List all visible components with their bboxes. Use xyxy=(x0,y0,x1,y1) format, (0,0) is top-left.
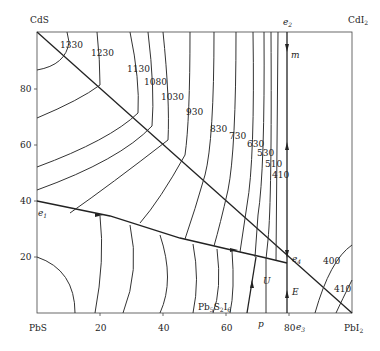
point-e4: e4 xyxy=(292,254,301,265)
y-tick-60: 60 xyxy=(20,140,32,150)
stable-diagonal xyxy=(37,32,352,313)
svg-text:1030: 1030 xyxy=(161,92,184,102)
svg-text:1230: 1230 xyxy=(91,48,114,58)
svg-text:530: 530 xyxy=(257,148,274,158)
y-tick-40: 40 xyxy=(20,196,32,206)
svg-text:930: 930 xyxy=(186,107,203,117)
y-tick-20: 20 xyxy=(20,252,32,262)
svg-text:830: 830 xyxy=(210,124,227,134)
isotherm-labels: 1330 1230 1130 1080 1030 930 830 730 630… xyxy=(60,40,351,294)
x-tick-60: 60 xyxy=(221,323,233,333)
corner-pbi2: PbI2 xyxy=(344,323,363,334)
svg-text:1330: 1330 xyxy=(60,40,83,50)
point-m: m xyxy=(291,50,300,60)
phase-diagram: CdS CdI2 PbS PbI2 20 40 60 80 20 40 60 8… xyxy=(0,0,380,351)
svg-text:400: 400 xyxy=(323,256,340,266)
point-e1: e1 xyxy=(38,208,47,219)
svg-text:410: 410 xyxy=(334,284,351,294)
svg-text:1130: 1130 xyxy=(127,64,150,74)
point-e3: e3 xyxy=(296,322,305,333)
corner-pbs: PbS xyxy=(29,323,47,333)
svg-text:730: 730 xyxy=(229,131,246,141)
point-p: p xyxy=(258,319,264,329)
svg-text:1080: 1080 xyxy=(144,77,167,87)
point-E: E xyxy=(291,287,299,297)
x-tick-40: 40 xyxy=(158,323,170,333)
y-axis-ticks xyxy=(34,89,289,316)
x-tick-20: 20 xyxy=(95,323,107,333)
y-tick-80: 80 xyxy=(20,84,32,94)
corner-cds: CdS xyxy=(30,15,49,25)
point-U: U xyxy=(263,276,271,286)
corner-cdi2: CdI2 xyxy=(348,15,368,26)
point-e2: e2 xyxy=(283,17,292,28)
compound-label: Pb5S2I6 xyxy=(198,302,231,313)
x-tick-80: 80 xyxy=(284,323,296,333)
svg-text:510: 510 xyxy=(265,159,282,169)
svg-text:410: 410 xyxy=(272,170,289,180)
